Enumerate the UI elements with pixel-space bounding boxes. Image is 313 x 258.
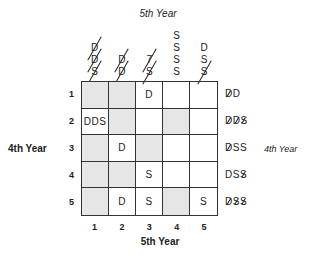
grid-cell-r5-c4 bbox=[163, 188, 190, 215]
column-label-4: 4 bbox=[163, 222, 190, 232]
row-label-3: 3 bbox=[62, 143, 74, 153]
struck-symbol: S bbox=[240, 196, 247, 207]
struck-symbol: 7 bbox=[136, 54, 163, 66]
struck-symbol: D bbox=[81, 42, 108, 54]
struck-symbol: S bbox=[81, 66, 108, 78]
grid-cell-r2-c2 bbox=[109, 109, 136, 136]
grid-cell-r5-c5: S bbox=[190, 188, 217, 215]
symbol: S bbox=[163, 66, 190, 78]
row-label-5: 5 bbox=[62, 197, 74, 207]
right-row-header-3: DSS bbox=[225, 142, 247, 153]
symbol: S bbox=[163, 30, 190, 42]
struck-symbol: S bbox=[233, 196, 240, 207]
grid-cell-r2-c1: DDS bbox=[82, 109, 109, 136]
symbol: D bbox=[233, 88, 241, 99]
struck-symbol: D bbox=[225, 88, 233, 99]
grid-cell-r4-c2 bbox=[109, 162, 136, 189]
grid-cell-r4-c4 bbox=[163, 162, 190, 189]
symbol: S bbox=[163, 42, 190, 54]
grid-cell-r1-c4 bbox=[163, 82, 190, 109]
grid-cell-r3-c1 bbox=[82, 135, 109, 162]
grid-cell-r5-c2: D bbox=[109, 188, 136, 215]
struck-symbol: D bbox=[108, 54, 135, 66]
grid-cell-r3-c5 bbox=[190, 135, 217, 162]
grid-cell-r1-c3: D bbox=[136, 82, 163, 109]
column-label-2: 2 bbox=[108, 222, 135, 232]
grid-cell-r4-c3: S bbox=[136, 162, 163, 189]
symbol: D bbox=[225, 169, 233, 180]
right-row-header-1: DD bbox=[225, 88, 240, 99]
column-label-3: 3 bbox=[136, 222, 163, 232]
symbol: S bbox=[233, 169, 240, 180]
left-axis-title: 4th Year bbox=[8, 143, 47, 154]
symbol: S bbox=[233, 142, 240, 153]
struck-symbol: S bbox=[240, 115, 247, 126]
right-row-header-2: DDS bbox=[225, 115, 248, 126]
right-row-header-5: DSS bbox=[225, 196, 247, 207]
row-label-4: 4 bbox=[62, 170, 74, 180]
grid-cell-r2-c3 bbox=[136, 109, 163, 136]
symbol: S bbox=[191, 54, 218, 66]
column-header-2: DD bbox=[108, 54, 135, 78]
grid-cell-r2-c4 bbox=[163, 109, 190, 136]
grid-cell-r3-c4 bbox=[163, 135, 190, 162]
grid-cell-r3-c2: D bbox=[109, 135, 136, 162]
row-label-2: 2 bbox=[62, 116, 74, 126]
grid-cell-r5-c1 bbox=[82, 188, 109, 215]
grid-cell-r2-c5 bbox=[190, 109, 217, 136]
top-axis-title: 5th Year bbox=[118, 8, 198, 19]
grid-cell-r4-c1 bbox=[82, 162, 109, 189]
struck-symbol: D bbox=[225, 142, 233, 153]
right-axis-title: 4th Year bbox=[264, 144, 297, 154]
bottom-axis-title: 5th Year bbox=[110, 236, 210, 247]
column-label-1: 1 bbox=[81, 222, 108, 232]
symbol: S bbox=[240, 142, 247, 153]
struck-symbol: S bbox=[191, 66, 218, 78]
struck-symbol: S bbox=[240, 169, 247, 180]
column-label-5: 5 bbox=[191, 222, 218, 232]
symbol: D bbox=[191, 42, 218, 54]
struck-symbol: D bbox=[225, 196, 233, 207]
grid-cell-r1-c1 bbox=[82, 82, 109, 109]
column-header-5: DSS bbox=[191, 42, 218, 78]
matrix-grid: DDDSDSDSS bbox=[81, 81, 218, 216]
struck-symbol: S bbox=[136, 66, 163, 78]
column-header-4: SSSS bbox=[163, 30, 190, 78]
struck-symbol: D bbox=[225, 115, 233, 126]
grid-cell-r1-c2 bbox=[109, 82, 136, 109]
right-row-header-4: DSS bbox=[225, 169, 247, 180]
grid-cell-r4-c5 bbox=[190, 162, 217, 189]
struck-symbol: D bbox=[233, 115, 241, 126]
grid-cell-r5-c3: S bbox=[136, 188, 163, 215]
grid-cell-r1-c5 bbox=[190, 82, 217, 109]
column-header-3: 7S bbox=[136, 54, 163, 78]
row-label-1: 1 bbox=[62, 89, 74, 99]
column-header-1: DDS bbox=[81, 42, 108, 78]
struck-symbol: D bbox=[81, 54, 108, 66]
symbol: S bbox=[163, 54, 190, 66]
grid-cell-r3-c3 bbox=[136, 135, 163, 162]
struck-symbol: D bbox=[108, 66, 135, 78]
